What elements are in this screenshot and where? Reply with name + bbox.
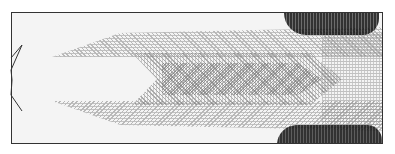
upper-high-value-region xyxy=(284,13,379,35)
lower-high-value-region xyxy=(277,125,382,144)
inlet-chevron-icon xyxy=(0,0,40,154)
domain-frame xyxy=(11,12,383,144)
velocity-field xyxy=(12,13,382,143)
inner-core-region xyxy=(162,63,322,95)
flow-field-figure xyxy=(0,0,395,154)
